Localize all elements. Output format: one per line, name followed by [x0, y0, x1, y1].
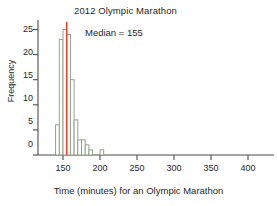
plot-area: [0, 0, 277, 206]
histogram-bar: [85, 145, 89, 155]
histogram-bar: [70, 80, 74, 155]
histogram-bar: [82, 140, 86, 155]
histogram-figure: 2012 Olympic Marathon Median = 155 Frequ…: [0, 0, 277, 206]
histogram-bar: [56, 125, 60, 155]
histogram-bar: [89, 150, 93, 155]
x-tick-marks: [63, 155, 248, 160]
y-tick-marks: [33, 30, 38, 156]
histogram-bar: [59, 40, 63, 156]
histogram-bars: [56, 30, 104, 156]
histogram-bar: [100, 150, 104, 155]
histogram-bar: [78, 140, 82, 155]
histogram-bar: [74, 120, 78, 155]
